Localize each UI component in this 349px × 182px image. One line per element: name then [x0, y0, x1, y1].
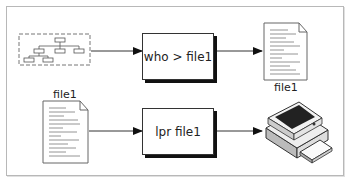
command-box-lpr: lpr file1 [142, 108, 214, 155]
directory-tree-icon [19, 34, 90, 65]
command-who-text: who > file1 [144, 50, 212, 64]
document-icon-input [43, 101, 88, 163]
document-icon-output [264, 23, 307, 80]
printer-icon [266, 102, 332, 163]
output-file-label: file1 [266, 81, 306, 94]
command-box-who: who > file1 [142, 33, 214, 80]
input-file-label: file1 [45, 88, 85, 101]
command-lpr-text: lpr file1 [155, 125, 201, 139]
